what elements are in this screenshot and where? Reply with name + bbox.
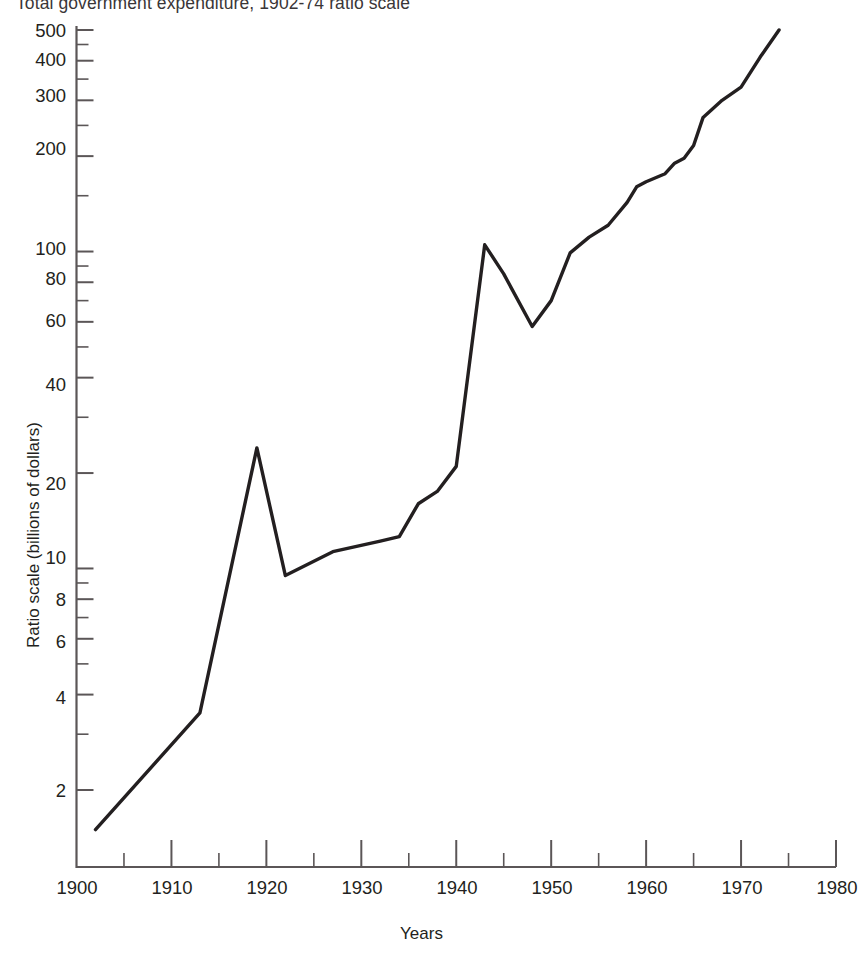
- y-tick-label-100: 100: [0, 238, 66, 260]
- y-tick-label-80: 80: [0, 268, 66, 290]
- y-tick-label-4: 4: [0, 687, 66, 709]
- x-tick-label-1930: 1930: [322, 877, 402, 899]
- x-tick-label-1920: 1920: [227, 877, 307, 899]
- data-line-total-government-expenditure: [95, 30, 779, 830]
- y-tick-label-300: 300: [0, 85, 66, 107]
- y-tick-label-200: 200: [0, 138, 66, 160]
- y-axis-title: Ratio scale (billions of dollars): [24, 422, 44, 648]
- y-tick-label-60: 60: [0, 310, 66, 332]
- y-axis-major-ticks: [77, 30, 94, 790]
- x-tick-label-1910: 1910: [132, 877, 212, 899]
- x-tick-label-1950: 1950: [512, 877, 592, 899]
- x-axis-title: Years: [0, 924, 843, 944]
- axis-lines: [77, 26, 837, 868]
- x-tick-label-1980: 1980: [797, 877, 862, 899]
- y-axis-minor-ticks: [77, 45, 89, 735]
- x-tick-label-1900: 1900: [37, 877, 117, 899]
- x-tick-label-1970: 1970: [702, 877, 782, 899]
- x-tick-label-1960: 1960: [607, 877, 687, 899]
- y-tick-label-2: 2: [0, 780, 66, 802]
- y-tick-label-500: 500: [0, 20, 66, 42]
- y-tick-label-400: 400: [0, 49, 66, 71]
- y-tick-label-40: 40: [0, 374, 66, 396]
- x-tick-label-1940: 1940: [417, 877, 497, 899]
